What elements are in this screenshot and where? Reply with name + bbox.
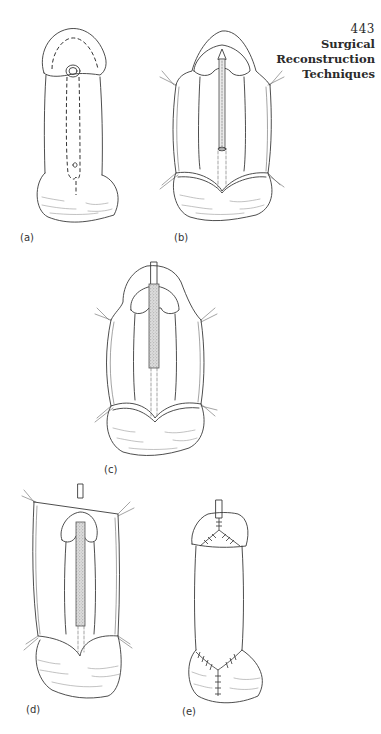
figure-e-illustration: [190, 500, 275, 700]
running-title-line-1: Surgical: [276, 37, 375, 52]
running-title-line-3: Techniques: [276, 67, 375, 82]
figure-d-illustration: [22, 484, 137, 704]
figure-b-illustration: [160, 25, 285, 225]
running-title-line-2: Reconstruction: [276, 52, 375, 67]
figure-b-label: (b): [174, 232, 188, 243]
figure-a-illustration: [28, 25, 128, 225]
page-number: 443: [276, 22, 375, 37]
running-header: 443 Surgical Reconstruction Techniques: [276, 22, 375, 82]
figure-c-illustration: [93, 258, 223, 458]
figure-d-label: (d): [26, 704, 40, 715]
figure-c-label: (c): [104, 464, 117, 475]
figure-e-label: (e): [182, 706, 196, 717]
figure-a-label: (a): [20, 232, 34, 243]
